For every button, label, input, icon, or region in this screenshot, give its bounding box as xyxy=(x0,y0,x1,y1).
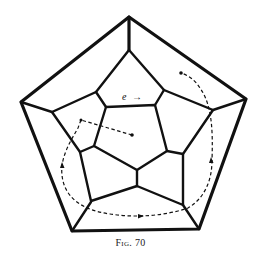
svg-text:→: → xyxy=(132,91,142,102)
dodecahedron-schlegel-diagram: e → xyxy=(0,0,261,258)
outer-pentagon xyxy=(21,17,246,231)
edge-label-e: e → xyxy=(122,91,142,102)
arrowhead-bottom xyxy=(138,214,144,219)
svg-text:e: e xyxy=(122,91,127,102)
arrowhead-left xyxy=(60,162,65,168)
inner-pentagon xyxy=(94,105,167,170)
outer-spokes xyxy=(21,17,246,231)
figure-caption: Fig. 70 xyxy=(0,237,261,248)
arrowhead-right xyxy=(209,157,214,163)
middle-ring xyxy=(52,50,213,205)
